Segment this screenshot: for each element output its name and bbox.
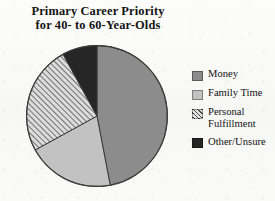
- chart-title-line-2: for 40- to 60-Year-Olds: [0, 18, 196, 32]
- legend-label-other-unsure: Other/Unsure: [208, 136, 266, 148]
- legend-item-other-unsure: Other/Unsure: [192, 136, 275, 149]
- personal-fulfillment-swatch: [192, 109, 203, 119]
- legend-item-money: Money: [192, 68, 275, 81]
- legend-item-family-time: Family Time: [192, 87, 275, 100]
- pie-chart: [26, 45, 168, 187]
- pie-slice-money: [97, 46, 167, 186]
- legend-label-personal-fulfillment: Personal Fulfillment: [208, 106, 274, 129]
- legend-label-money: Money: [208, 68, 238, 80]
- chart-title: Primary Career Priority for 40- to 60-Ye…: [0, 4, 196, 33]
- chart-legend: Money Family Time Personal Fulfillment O…: [192, 68, 275, 155]
- legend-label-family-time: Family Time: [208, 87, 262, 99]
- pie-chart-svg: [26, 45, 168, 187]
- chart-title-line-1: Primary Career Priority: [0, 4, 196, 18]
- other-unsure-swatch: [192, 138, 203, 148]
- pie-slices: [27, 46, 168, 187]
- family-time-swatch: [192, 90, 203, 100]
- pie-chart-figure: Primary Career Priority for 40- to 60-Ye…: [0, 0, 275, 201]
- legend-item-personal-fulfillment: Personal Fulfillment: [192, 106, 275, 129]
- money-swatch: [192, 71, 203, 81]
